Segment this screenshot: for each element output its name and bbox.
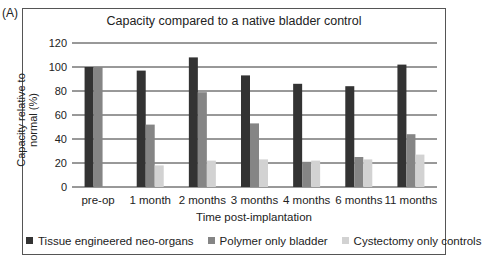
bar (94, 67, 103, 187)
bar (137, 71, 146, 187)
bar (259, 159, 268, 187)
bar (363, 159, 372, 187)
legend-item: Tissue engineered neo-organs (26, 235, 194, 247)
bar (302, 162, 311, 187)
bar (250, 123, 259, 187)
y-tick-label: 40 (55, 133, 67, 145)
legend-item: Polymer only bladder (208, 235, 328, 247)
bar (354, 157, 363, 187)
bar (345, 86, 354, 187)
bar (155, 165, 164, 187)
y-tick-label: 80 (55, 85, 67, 97)
x-tick-label: 4 months (283, 194, 331, 206)
bar (207, 161, 216, 187)
bar (85, 67, 94, 187)
legend-label: Polymer only bladder (220, 235, 328, 247)
bar (406, 134, 415, 187)
x-tick-label: 6 months (335, 194, 383, 206)
legend-item: Cystectomy only controls (342, 235, 482, 247)
y-tick-label: 20 (55, 157, 67, 169)
x-tick-label: 2 months (179, 194, 227, 206)
bar (397, 65, 406, 187)
x-tick-label: pre-op (81, 194, 114, 206)
x-tick-label: 11 months (384, 194, 437, 206)
legend-swatch (26, 237, 33, 244)
y-tick-label: 0 (61, 181, 67, 193)
x-tick-label: 3 months (231, 194, 279, 206)
bar (146, 125, 155, 187)
legend-label: Cystectomy only controls (354, 235, 482, 247)
legend: Tissue engineered neo-organsPolymer only… (26, 235, 486, 247)
bar (415, 155, 424, 187)
x-tick-label: 1 month (129, 194, 171, 206)
bar (311, 161, 320, 187)
y-tick-label: 100 (49, 61, 67, 73)
legend-swatch (208, 237, 215, 244)
legend-label: Tissue engineered neo-organs (38, 235, 194, 247)
bar (189, 57, 198, 187)
y-tick-label: 60 (55, 109, 67, 121)
bar (293, 84, 302, 187)
y-tick-label: 120 (49, 37, 67, 49)
bar (198, 92, 207, 187)
x-axis-label: Time post-implantation (72, 211, 436, 223)
bar (241, 75, 250, 187)
legend-swatch (342, 237, 349, 244)
